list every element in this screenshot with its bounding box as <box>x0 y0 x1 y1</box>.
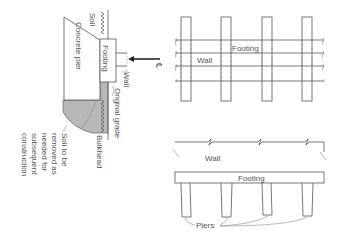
label-bulkhead: Bulkhead <box>95 135 104 168</box>
wall-top-edge <box>175 139 324 152</box>
plan-view: Footing Wall <box>175 17 324 101</box>
elev-label-piers: Piers <box>196 221 214 230</box>
leader-pier-2 <box>220 218 228 225</box>
plan-break-left <box>175 38 177 82</box>
wall-stub <box>116 53 127 66</box>
elev-pier-3 <box>262 183 272 215</box>
elev-pier-1 <box>181 183 191 217</box>
elev-pier-4 <box>302 183 313 216</box>
elevation-view: Wall Footing Piers <box>173 139 326 230</box>
leader-soil-removed <box>62 126 66 131</box>
section-view: Soil Concrete pier Footing Wall ℄ Origin… <box>20 10 163 176</box>
label-soil-removed-line-1: Soil to be <box>60 133 69 167</box>
elev-label-footing: Footing <box>238 174 265 183</box>
plan-pier-1 <box>181 17 191 101</box>
plan-pier-3 <box>262 17 272 101</box>
leader-pier-3 <box>220 216 268 226</box>
label-soil-removed-line-5: construction <box>20 133 29 176</box>
label-soil-removed-line-3: needed for <box>40 133 49 172</box>
diagram-canvas: Soil Concrete pier Footing Wall ℄ Origin… <box>0 0 344 239</box>
plan-pier-2 <box>221 17 231 101</box>
arrow-head-icon <box>128 56 134 62</box>
plan-label-wall: Wall <box>197 56 212 65</box>
plan-label-footing: Footing <box>232 44 259 53</box>
label-soil: Soil <box>88 13 97 27</box>
label-soil-removed-line-2: removed as <box>50 133 59 175</box>
label-soil-removed-line-4: subsequent <box>30 133 39 175</box>
plan-pier-4 <box>302 17 312 101</box>
soil-hatch-top <box>101 12 104 34</box>
elev-pier-2 <box>221 183 232 217</box>
elev-label-wall: Wall <box>205 154 220 163</box>
wall-break-marks <box>173 149 326 160</box>
label-wall: Wall <box>122 72 131 87</box>
leader-pier-1 <box>185 218 195 225</box>
label-concrete-pier: Concrete pier <box>74 22 83 70</box>
label-centerline: ℄ <box>154 62 163 69</box>
label-soil-removed: Soil to be removed as needed for subsequ… <box>20 133 69 176</box>
plan-break-right <box>322 38 324 82</box>
label-original-grade: Original grade <box>113 88 122 139</box>
label-footing: Footing <box>101 45 110 72</box>
